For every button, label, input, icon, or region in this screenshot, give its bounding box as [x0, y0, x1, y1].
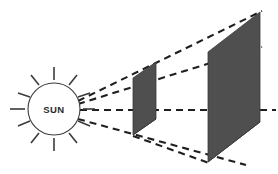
sun-ray-ssw	[31, 133, 39, 143]
sun-ray-nnw	[31, 75, 39, 85]
diagram-canvas: SUN	[0, 0, 278, 174]
far-screen-surface	[208, 12, 260, 162]
sun-ray-ese	[78, 121, 90, 126]
sun-ray-sse	[69, 133, 77, 143]
sun-label: SUN	[43, 104, 64, 115]
sun-ray-wsw	[18, 121, 30, 126]
ray-base-connector	[133, 136, 209, 163]
sun-ray-wnw	[18, 93, 30, 97]
sunlight-spread-diagram: SUN	[0, 0, 278, 174]
sun-ray-ene	[78, 93, 90, 97]
sun-ray-nne	[69, 75, 77, 85]
far-screen-panel	[208, 12, 260, 162]
